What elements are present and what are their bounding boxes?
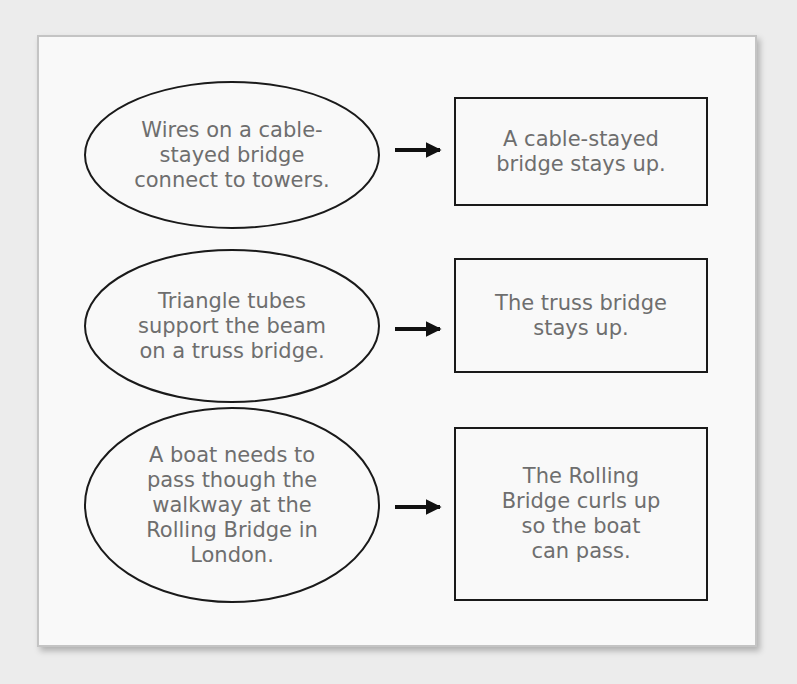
effect-text-2: The truss bridge stays up. <box>457 261 705 370</box>
cause-text-3: A boat needs to pass though the walkway … <box>90 415 374 595</box>
effect-text-1: A cable-stayed bridge stays up. <box>457 100 705 203</box>
cause-text-2: Triangle tubes support the beam on a tru… <box>90 258 374 394</box>
effect-text-3: The Rolling Bridge curls up so the boat … <box>457 430 705 598</box>
cause-text-1: Wires on a cable- stayed bridge connect … <box>90 90 374 220</box>
